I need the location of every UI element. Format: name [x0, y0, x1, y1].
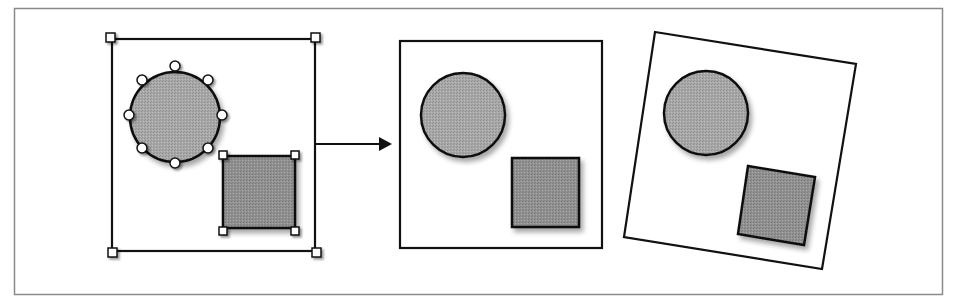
circle-handle-w[interactable]	[124, 110, 134, 120]
circle-handle-nw[interactable]	[137, 75, 147, 85]
square-handle-se[interactable]	[291, 227, 299, 235]
panel-rotated-group	[624, 32, 856, 269]
group-handle-ne[interactable]	[311, 33, 320, 42]
circle-handle-e[interactable]	[217, 110, 227, 120]
circle-handle-se[interactable]	[203, 143, 213, 153]
square-handle-sw[interactable]	[219, 227, 227, 235]
grouping-diagram	[0, 0, 955, 307]
circle-shape	[664, 71, 748, 155]
circle-shape	[421, 73, 505, 157]
square-shape	[738, 166, 815, 245]
group-handle-nw[interactable]	[106, 33, 115, 42]
circle-handle-n[interactable]	[170, 61, 180, 71]
group-handle-se[interactable]	[312, 248, 321, 257]
square-handle-ne[interactable]	[291, 151, 299, 159]
circle-handle-s[interactable]	[170, 158, 180, 168]
group-handle-sw[interactable]	[108, 248, 117, 257]
circle-handle-sw[interactable]	[137, 143, 147, 153]
square-shape[interactable]	[223, 156, 295, 228]
square-shape	[512, 158, 579, 227]
circle-handle-ne[interactable]	[203, 75, 213, 85]
square-handle-nw[interactable]	[219, 151, 227, 159]
panel-grouped-object	[400, 41, 602, 248]
